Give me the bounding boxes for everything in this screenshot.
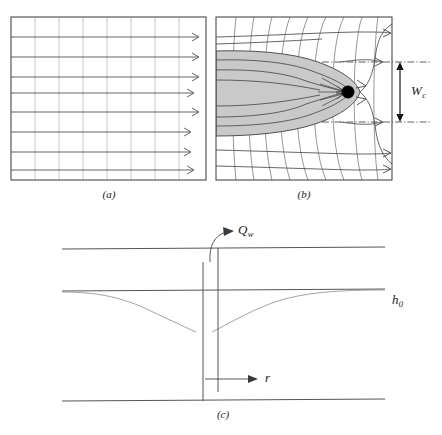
radial-distance-arrowhead — [248, 375, 258, 383]
initial-head-subscript: 0 — [399, 299, 403, 309]
drawdown-curve-right — [212, 290, 385, 332]
radial-distance-label: r — [265, 370, 270, 386]
initial-head-symbol: h — [392, 292, 399, 307]
figure-container: (a) — [0, 0, 442, 435]
pumping-rate-subscript: w — [248, 229, 254, 239]
ground-surface-line — [62, 247, 385, 249]
initial-head-label: h0 — [392, 292, 403, 308]
panel-c-drawing — [0, 0, 442, 435]
drawdown-curve-left — [62, 292, 196, 332]
pumping-rate-symbol: Q — [238, 222, 247, 237]
water-table-line — [62, 289, 385, 291]
panel-c-caption: (c) — [209, 408, 237, 420]
pumping-rate-arrowhead — [223, 227, 234, 236]
pumping-rate-label: Qw — [238, 222, 253, 238]
aquifer-base-line — [62, 399, 385, 401]
